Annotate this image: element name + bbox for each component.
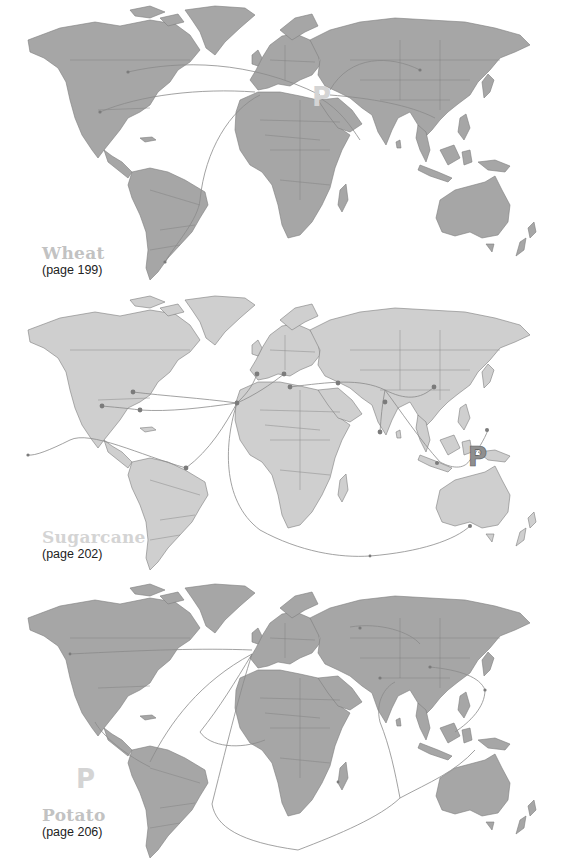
route-node-dot [485, 428, 489, 432]
wheat-map-panel: P Wheat (page 199) [0, 0, 566, 290]
crop-name: Sugarcane [42, 528, 146, 546]
page-reference: (page 199) [42, 262, 105, 278]
route-node-dot [26, 453, 29, 456]
route-node-dot [378, 676, 381, 679]
sugarcane-map-panel: P Sugarcane (page 202) [0, 290, 566, 580]
crop-name: Potato [42, 806, 106, 824]
potato-map-panel: P Potato (page 206) [0, 572, 566, 863]
wheat-land [28, 6, 536, 280]
route-node-dot [432, 385, 437, 390]
origin-marker-p: P [468, 442, 487, 472]
route-node-dot [235, 401, 240, 406]
route-node-dot [282, 372, 287, 377]
route-node-dot [131, 390, 136, 395]
sugar-route-caribbean [140, 403, 237, 411]
page-reference: (page 206) [42, 824, 106, 840]
route-node-dot [378, 430, 383, 435]
route-node-dot [255, 372, 260, 377]
crop-name: Wheat [42, 244, 105, 262]
route-node-dot [100, 404, 105, 409]
route-node-dot [435, 461, 439, 465]
route-node-dot [383, 400, 388, 405]
route-node-dot [184, 466, 189, 471]
wheat-caption: Wheat (page 199) [42, 244, 105, 278]
page-reference: (page 202) [42, 546, 146, 562]
sugarcane-caption: Sugarcane (page 202) [42, 528, 146, 562]
route-node-dot [163, 260, 166, 263]
route-node-dot [126, 70, 129, 73]
route-node-dot [98, 110, 101, 113]
potato-caption: Potato (page 206) [42, 806, 106, 840]
route-node-dot [358, 626, 361, 629]
route-node-dot [336, 381, 341, 386]
route-node-dot [369, 555, 372, 558]
sugar-route-florida [133, 392, 237, 403]
route-node-dot [69, 653, 72, 656]
route-node-dot [288, 385, 293, 390]
route-node-dot [468, 524, 472, 528]
route-node-dot [138, 408, 143, 413]
route-node-dot [483, 688, 486, 691]
route-node-dot [418, 68, 421, 71]
route-node-dot [428, 665, 431, 668]
origin-marker-p: P [312, 82, 331, 112]
route-node-dot [337, 781, 340, 784]
origin-marker-p: P [76, 764, 95, 794]
